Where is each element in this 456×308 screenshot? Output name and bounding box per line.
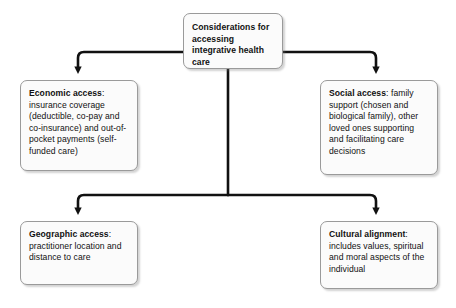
node-geographic-access: Geographic access: practitioner location…: [20, 221, 138, 285]
node-geographic-access-body: practitioner location and distance to ca…: [29, 241, 129, 264]
connector-root-to-cultural: [227, 195, 376, 209]
connector-root-to-social: [283, 52, 376, 68]
node-considerations-text: Considerations for accessing integrative…: [192, 22, 274, 68]
node-geographic-access-label: Geographic access: [29, 229, 109, 239]
node-economic-access-label: Economic access: [29, 88, 102, 98]
node-cultural-alignment: Cultural alignment: includes values, spi…: [320, 221, 438, 289]
node-economic-access-body: insurance coverage (deductible, co-pay a…: [29, 100, 129, 158]
node-considerations: Considerations for accessing integrative…: [183, 13, 283, 69]
node-cultural-alignment-label: Cultural alignment: [329, 229, 405, 239]
connector-root-to-economic: [78, 52, 183, 68]
node-economic-access: Economic access: insurance coverage (ded…: [20, 80, 138, 171]
node-social-access-body: family support (chosen and biological fa…: [329, 88, 418, 156]
node-social-access: Social access: family support (chosen an…: [320, 80, 438, 175]
node-cultural-alignment-separator: :: [405, 229, 407, 239]
node-economic-access-separator: :: [102, 88, 104, 98]
node-geographic-access-separator: :: [109, 229, 111, 239]
diagram-canvas: Considerations for accessing integrative…: [0, 0, 456, 308]
node-social-access-separator: :: [386, 88, 388, 98]
node-cultural-alignment-body: includes values, spiritual and moral asp…: [329, 241, 429, 276]
node-social-access-label: Social access: [329, 88, 386, 98]
connector-root-to-geographic: [78, 195, 229, 209]
